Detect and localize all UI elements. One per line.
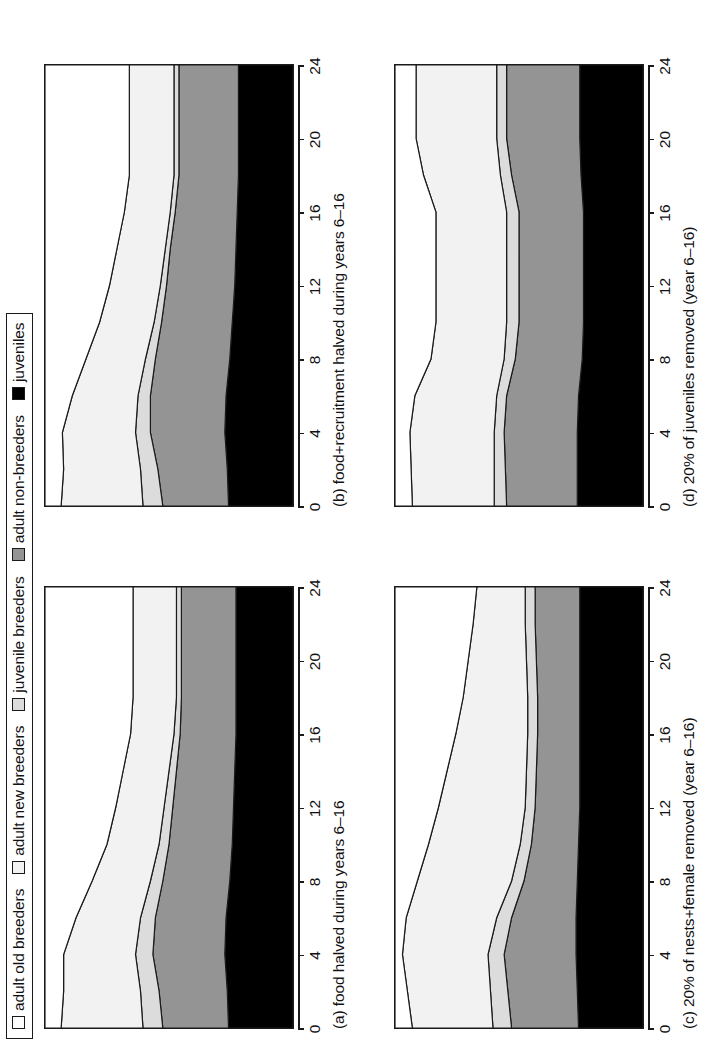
axis-tick	[298, 139, 304, 141]
x-axis: 04812162024	[648, 66, 678, 507]
axis-tick	[648, 1028, 654, 1030]
axis-tick	[298, 359, 304, 361]
legend-item-label: juveniles	[11, 323, 27, 382]
panel-caption: (a) food halved during years 6–16	[330, 801, 348, 1030]
legend-item-label: adult new breeders	[11, 726, 27, 856]
axis-tick	[298, 808, 304, 810]
axis-tick-label: 12	[306, 278, 324, 295]
square-swatch-icon	[12, 548, 25, 561]
axis-tick	[298, 433, 304, 435]
axis-tick	[648, 661, 654, 663]
axis-tick	[648, 734, 654, 736]
square-swatch-icon	[12, 387, 25, 400]
axis-tick-label: 8	[656, 878, 674, 887]
axis-tick-label: 12	[306, 800, 324, 817]
axis-tick	[648, 808, 654, 810]
legend-item: juvenile breeders	[11, 576, 27, 710]
square-swatch-icon	[12, 861, 25, 874]
axis-tick	[648, 881, 654, 883]
square-swatch-icon	[12, 1016, 25, 1029]
plot-area	[394, 586, 644, 1029]
axis-tick-label: 12	[656, 278, 674, 295]
axis-tick-label: 20	[306, 131, 324, 148]
axis-tick-label: 16	[306, 204, 324, 221]
plot-area	[44, 64, 294, 507]
axis-tick-label: 20	[656, 131, 674, 148]
axis-tick	[298, 65, 304, 67]
area-series-juveniles	[576, 587, 643, 1028]
axis-tick-label: 4	[306, 429, 324, 438]
axis-tick-label: 4	[656, 951, 674, 960]
axis-tick-label: 12	[656, 800, 674, 817]
plot-area	[44, 586, 294, 1029]
axis-tick	[648, 587, 654, 589]
panel-caption: (d) 20% of juveniles removed (year 6–16)	[680, 227, 698, 507]
legend-item: adult new breeders	[11, 726, 27, 874]
axis-tick-label: 8	[306, 356, 324, 365]
legend-item-label: adult old breeders	[11, 889, 27, 1011]
axis-tick-label: 20	[306, 653, 324, 670]
axis-tick-label: 24	[306, 57, 324, 74]
axis-tick	[648, 955, 654, 957]
axis-tick-label: 0	[656, 503, 674, 512]
axis-tick	[648, 65, 654, 67]
axis-tick	[648, 506, 654, 508]
axis-tick	[298, 881, 304, 883]
axis-tick	[648, 139, 654, 141]
x-axis: 04812162024	[298, 588, 328, 1029]
axis-tick	[298, 955, 304, 957]
axis-tick	[298, 286, 304, 288]
axis-tick-label: 8	[656, 356, 674, 365]
x-axis: 04812162024	[298, 66, 328, 507]
plot-area	[394, 64, 644, 507]
panel-caption: (c) 20% of nests+female removed (year 6–…	[680, 718, 698, 1029]
axis-tick	[298, 506, 304, 508]
axis-tick-label: 0	[306, 1025, 324, 1034]
axis-tick	[298, 1028, 304, 1030]
legend-item: adult old breeders	[11, 889, 27, 1029]
legend: adult old breedersadult new breedersjuve…	[6, 313, 33, 1039]
axis-tick-label: 16	[656, 204, 674, 221]
axis-tick-label: 0	[306, 503, 324, 512]
axis-tick-label: 24	[306, 579, 324, 596]
axis-tick	[298, 661, 304, 663]
chart-panel-d: 04812162024(d) 20% of juveniles removed …	[394, 66, 702, 507]
chart-panel-c: 04812162024(c) 20% of nests+female remov…	[394, 588, 702, 1029]
axis-tick-label: 16	[306, 726, 324, 743]
axis-tick	[648, 359, 654, 361]
axis-tick	[298, 587, 304, 589]
axis-tick-label: 4	[656, 429, 674, 438]
axis-tick	[648, 433, 654, 435]
axis-tick	[298, 212, 304, 214]
axis-tick-label: 8	[306, 878, 324, 887]
legend-item-label: juvenile breeders	[11, 576, 27, 692]
legend-item-label: adult non-breeders	[11, 415, 27, 543]
axis-tick-label: 0	[656, 1025, 674, 1034]
x-axis: 04812162024	[648, 588, 678, 1029]
axis-tick-label: 16	[656, 726, 674, 743]
axis-tick-label: 20	[656, 653, 674, 670]
axis-tick-label: 4	[306, 951, 324, 960]
legend-item: juveniles	[11, 323, 27, 400]
axis-tick-label: 24	[656, 57, 674, 74]
axis-tick-label: 24	[656, 579, 674, 596]
figure-root: adult old breedersadult new breedersjuve…	[0, 0, 722, 1047]
panel-caption: (b) food+recruitment halved during years…	[330, 193, 348, 507]
legend-item: adult non-breeders	[11, 415, 27, 561]
panel-grid: 04812162024(a) food halved during years …	[44, 0, 722, 1047]
chart-panel-b: 04812162024(b) food+recruitment halved d…	[44, 66, 352, 507]
chart-panel-a: 04812162024(a) food halved during years …	[44, 588, 352, 1029]
axis-tick	[298, 734, 304, 736]
axis-tick	[648, 286, 654, 288]
area-series-juveniles	[577, 65, 643, 506]
axis-tick	[648, 212, 654, 214]
square-swatch-icon	[12, 698, 25, 711]
